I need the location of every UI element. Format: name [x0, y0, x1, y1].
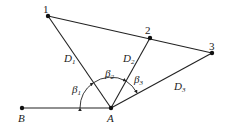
label-D3: D3 — [173, 80, 186, 94]
label-beta1: β1 — [71, 83, 81, 97]
point-2 — [148, 36, 152, 40]
lines — [22, 16, 212, 108]
label-point-3: 3 — [209, 40, 215, 52]
label-beta2: β2 — [104, 67, 114, 81]
label-beta3: β3 — [133, 73, 143, 87]
line-1-2-3 — [48, 16, 212, 53]
points — [20, 14, 214, 110]
label-point-2: 2 — [145, 24, 151, 36]
label-point-B: B — [18, 112, 25, 124]
label-point-1: 1 — [43, 3, 49, 15]
point-B — [20, 106, 24, 110]
survey-angle-diagram: 1 2 3 A B D1 D2 D3 β1 β2 β3 — [0, 0, 229, 129]
labels: 1 2 3 A B D1 D2 D3 β1 β2 β3 — [18, 3, 215, 124]
label-point-A: A — [106, 112, 114, 124]
label-D2: D2 — [122, 52, 135, 66]
arc-beta1 — [80, 83, 93, 108]
point-A — [109, 106, 113, 110]
